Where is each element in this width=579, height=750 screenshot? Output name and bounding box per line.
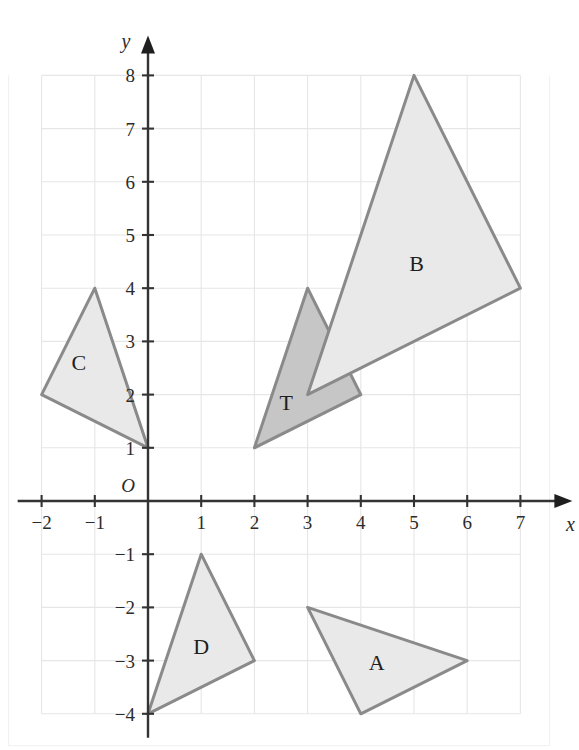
y-tick-label: 7	[126, 119, 136, 140]
shape-label-t: T	[280, 390, 294, 415]
y-tick-label: 4	[126, 278, 136, 299]
y-axis-arrow-icon	[141, 35, 155, 53]
plot-area: −2−11234567−4−3−2−112345678Oxy TBCDA	[0, 0, 579, 750]
x-tick-label: 1	[196, 512, 206, 533]
x-tick-label: 3	[303, 512, 313, 533]
shape-label-b: B	[409, 251, 424, 276]
y-tick-label: 1	[126, 438, 136, 459]
y-tick-label: 5	[126, 225, 136, 246]
coordinate-figure: −2−11234567−4−3−2−112345678Oxy TBCDA	[0, 0, 579, 750]
shape-label-a: A	[369, 650, 385, 675]
x-tick-label: −1	[85, 512, 105, 533]
y-tick-label: −4	[115, 704, 136, 725]
x-tick-label: 2	[250, 512, 260, 533]
y-tick-label: 2	[126, 385, 136, 406]
y-axis-name: y	[120, 30, 131, 53]
y-tick-label: −2	[115, 597, 135, 618]
y-tick-label: −1	[115, 544, 135, 565]
x-axis-name: x	[565, 513, 575, 535]
y-tick-label: −3	[115, 651, 135, 672]
x-tick-label: 6	[462, 512, 472, 533]
x-tick-label: 5	[409, 512, 419, 533]
x-tick-label: 4	[356, 512, 366, 533]
y-tick-label: 8	[126, 65, 136, 86]
x-tick-label: −2	[31, 512, 51, 533]
shape-label-c: C	[71, 350, 86, 375]
origin-label: O	[121, 475, 135, 496]
y-tick-label: 3	[126, 331, 136, 352]
x-axis-arrow-icon	[554, 494, 572, 508]
x-tick-label: 7	[516, 512, 526, 533]
shape-label-d: D	[193, 634, 209, 659]
y-tick-label: 6	[126, 172, 136, 193]
